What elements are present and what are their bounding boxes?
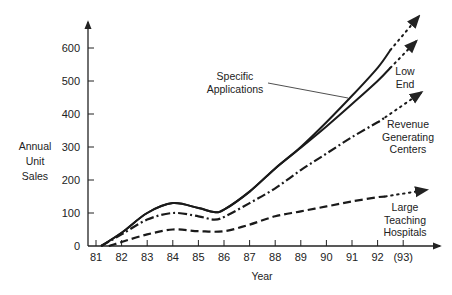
x-tick-label: 84 xyxy=(167,251,179,263)
x-tick-label: 81 xyxy=(90,251,102,263)
y-tick-label: 500 xyxy=(62,75,80,87)
y-axis-label: Unit xyxy=(26,155,45,167)
x-tick-label: 83 xyxy=(141,251,153,263)
series-label-large-teaching-hospitals: Large xyxy=(392,201,419,213)
x-tick-label: 92 xyxy=(371,251,383,263)
series-label-specific-applications: Applications xyxy=(207,83,264,95)
y-tick-label: 0 xyxy=(74,240,80,252)
series-label-low-end: End xyxy=(396,78,415,90)
specific-applications-leader-line xyxy=(268,83,348,98)
x-tick-label: 87 xyxy=(243,251,255,263)
series-label-revenue-generating-centers: Centers xyxy=(390,143,427,155)
series-label-revenue-generating-centers: Revenue xyxy=(387,118,429,130)
labels-layer: SpecificApplicationsLowEndRevenueGenerat… xyxy=(207,65,434,238)
series-label-revenue-generating-centers: Generating xyxy=(382,131,434,143)
axes: 0100200300400500600818283848586878889909… xyxy=(19,22,440,282)
series-label-large-teaching-hospitals: Teaching xyxy=(384,214,426,226)
y-tick-label: 600 xyxy=(62,42,80,54)
projection-line-revenue-generating-centers xyxy=(385,93,421,118)
x-tick-label: 82 xyxy=(115,251,127,263)
y-tick-label: 200 xyxy=(62,174,80,186)
x-tick-label: 91 xyxy=(346,251,358,263)
x-axis-label: Year xyxy=(251,270,273,282)
y-tick-label: 300 xyxy=(62,141,80,153)
series-label-large-teaching-hospitals: Hospitals xyxy=(383,226,426,238)
y-tick-label: 100 xyxy=(62,207,80,219)
y-axis-label: Annual xyxy=(19,140,52,152)
projection-line-large-teaching-hospitals xyxy=(385,190,426,197)
series-line-low-end xyxy=(101,68,390,246)
series-label-low-end: Low xyxy=(395,65,415,77)
x-tick-label: 85 xyxy=(192,251,204,263)
y-axis-label: Sales xyxy=(22,170,48,182)
projection-line-specific-applications xyxy=(390,17,418,50)
y-tick-label: 400 xyxy=(62,108,80,120)
series-label-specific-applications: Specific xyxy=(217,70,254,82)
x-tick-label: (93) xyxy=(393,251,413,263)
x-tick-label: 89 xyxy=(295,251,307,263)
annual-unit-sales-chart: 0100200300400500600818283848586878889909… xyxy=(0,0,452,295)
series-layer xyxy=(101,17,426,246)
x-tick-label: 86 xyxy=(218,251,230,263)
x-tick-label: 88 xyxy=(269,251,281,263)
x-tick-label: 90 xyxy=(320,251,332,263)
